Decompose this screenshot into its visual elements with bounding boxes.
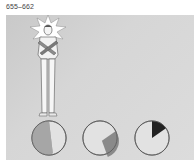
pie-chart-3 [133,119,171,157]
pie-chart-2 [81,119,119,157]
figure-range-label: 655–662 [6,3,34,10]
pie-chart-1 [30,119,68,157]
man-figure-illustration [28,15,68,119]
